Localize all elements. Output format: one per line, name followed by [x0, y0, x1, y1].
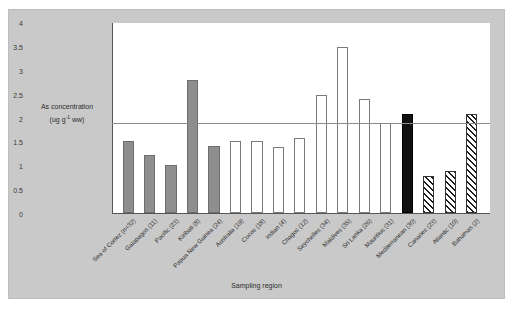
bar: [208, 146, 219, 213]
y-axis-title-line2-suffix: ww): [70, 116, 84, 123]
bar: [402, 114, 413, 213]
bar: [251, 141, 262, 213]
bar: [123, 141, 134, 213]
chart-figure: As concentration (ug g-1 ww) 00.511.522.…: [8, 9, 505, 299]
y-axis-title-line2-prefix: (ug g: [50, 116, 66, 123]
plot-area: [112, 23, 490, 214]
y-tick-label: 3.5: [0, 43, 23, 50]
bar: [273, 147, 284, 213]
y-tick-label: 2: [0, 115, 23, 122]
bar: [144, 155, 155, 213]
y-axis-line: [112, 23, 113, 214]
x-axis-title: Sampling region: [9, 282, 504, 289]
bar: [230, 141, 241, 213]
y-axis-title: As concentration (ug g-1 ww): [25, 102, 109, 125]
y-tick-label: 4: [0, 20, 23, 27]
bar: [187, 80, 198, 213]
figure-page: As concentration (ug g-1 ww) 00.511.522.…: [0, 0, 513, 312]
x-axis-tick-labels: Sea of Cortez (n=32)Galapagos (11)Pacifi…: [112, 215, 502, 285]
bar: [337, 47, 348, 213]
y-tick-label: 1.5: [0, 139, 23, 146]
bar: [294, 138, 305, 213]
reference-line: [112, 123, 490, 124]
bar: [445, 171, 456, 213]
y-tick-label: 3: [0, 67, 23, 74]
bar: [380, 123, 391, 213]
bar: [165, 165, 176, 213]
bar: [359, 99, 370, 213]
bar: [316, 95, 327, 213]
bar: [423, 176, 434, 213]
y-axis-title-line1: As concentration: [41, 103, 93, 110]
bar: [466, 114, 477, 213]
y-tick-label: 2.5: [0, 91, 23, 98]
x-axis-line: [112, 213, 490, 214]
y-tick-label: 0: [0, 211, 23, 218]
y-tick-label: 0.5: [0, 187, 23, 194]
y-tick-label: 1: [0, 163, 23, 170]
